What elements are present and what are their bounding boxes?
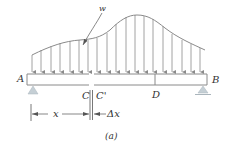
label-c-prime: C' xyxy=(96,90,106,101)
dim-x-label: x xyxy=(53,108,59,119)
dim-dx-label: Δx xyxy=(106,108,120,119)
label-c: C xyxy=(82,90,90,101)
load-leader-line xyxy=(83,13,102,45)
label-b: B xyxy=(211,74,219,85)
load-label: w xyxy=(99,4,106,13)
label-a: A xyxy=(16,73,24,84)
support-b xyxy=(195,86,211,95)
support-a xyxy=(28,86,38,94)
load-arrows xyxy=(32,15,200,72)
figure-caption: (a) xyxy=(105,131,118,141)
beam xyxy=(27,74,207,85)
load-curve xyxy=(32,15,205,55)
beam-diagram: w A B C C' D x Δx (a) xyxy=(0,0,230,155)
label-d: D xyxy=(151,89,160,100)
